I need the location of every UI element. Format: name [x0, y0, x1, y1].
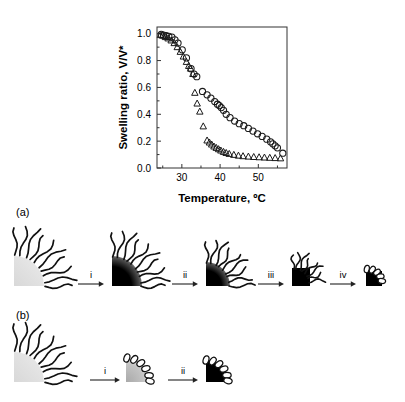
- arrow-i-head: [115, 377, 120, 382]
- y-tick-label: 0.0: [137, 163, 151, 174]
- collapsed-chain: [145, 372, 154, 378]
- arrow-i-label: i: [90, 269, 92, 280]
- data-point-triangle: [194, 100, 200, 106]
- polymer-chain: [309, 279, 326, 283]
- polymer-chain: [137, 259, 157, 272]
- state-fully-collapsed-particle: [202, 355, 233, 385]
- y-tick-label: 1.0: [137, 28, 151, 39]
- polymer-chain: [211, 241, 218, 264]
- state-collapsing-core-particle: [111, 231, 170, 288]
- data-point-triangle: [245, 153, 251, 159]
- polymer-chain: [45, 373, 77, 379]
- x-tick-label: 50: [253, 172, 265, 183]
- polymer-chain: [45, 284, 72, 288]
- y-tick-label: 0.2: [137, 136, 151, 147]
- arrow-ii-label: ii: [183, 269, 187, 280]
- polymer-chain: [229, 278, 252, 282]
- arrow-step-ii: ii: [168, 365, 198, 383]
- polymer-chain: [141, 278, 170, 283]
- polymer-chain: [43, 362, 71, 372]
- polymer-chain: [117, 231, 124, 257]
- polymer-chain: [296, 253, 300, 269]
- y-tick-label: 0.6: [137, 82, 151, 93]
- collapsed-chain: [145, 377, 155, 385]
- x-axis-title: Temperature, ºC: [178, 192, 266, 204]
- polymer-chain: [139, 268, 164, 277]
- state-collapsed-core-particle: [291, 253, 326, 286]
- arrow-iii-head: [279, 281, 284, 286]
- arrow-i-head: [99, 281, 104, 286]
- y-tick-label: 0.4: [137, 109, 151, 120]
- polymer-chain: [291, 255, 294, 269]
- arrow-step-ii: ii: [172, 269, 198, 287]
- x-tick-label: 30: [176, 172, 188, 183]
- schematic-a: iiiiiiiv: [0, 218, 405, 318]
- polymer-chain: [39, 250, 66, 268]
- data-point-triangle: [192, 89, 198, 95]
- arrow-step-iv: iv: [330, 269, 356, 287]
- data-point-triangle: [277, 155, 283, 161]
- arrow-ii-head: [193, 281, 198, 286]
- figure-container: 3040500.00.20.40.60.81.0Temperature, ºCS…: [0, 0, 405, 402]
- data-point-circle: [208, 95, 214, 101]
- polymer-chain: [41, 257, 64, 271]
- arrow-iii-label: iii: [268, 269, 274, 280]
- arrow-step-i: i: [90, 365, 120, 383]
- y-tick-label: 0.8: [137, 55, 151, 66]
- polymer-chain: [13, 324, 17, 351]
- y-axis-title: Swelling ratio, V/V*: [117, 45, 129, 150]
- polymer-chain: [41, 353, 64, 367]
- arrow-ii-label: ii: [181, 365, 185, 376]
- polymer-chain: [141, 284, 165, 288]
- arrow-ii-head: [193, 377, 198, 382]
- state-chain-collapsed-particle: [123, 353, 155, 385]
- polymer-chain: [205, 242, 209, 263]
- state-fully-collapsed-particle: [364, 265, 386, 286]
- data-point-triangle: [197, 108, 203, 114]
- polymer-chain: [20, 227, 28, 256]
- polymer-chain: [111, 233, 115, 257]
- arrow-step-i: i: [78, 269, 104, 287]
- plot-frame: [157, 27, 287, 168]
- state-swollen-particle: [13, 227, 77, 289]
- polymer-chain: [13, 228, 17, 255]
- polymer-chain: [45, 277, 77, 283]
- arrow-iv-head: [351, 281, 356, 286]
- arrow-iv-label: iv: [340, 269, 347, 280]
- arrow-step-iii: iii: [258, 269, 284, 287]
- panel-a-label: (a): [16, 206, 29, 218]
- state-shrinking-particle: [205, 241, 255, 288]
- particle-core: [14, 256, 44, 286]
- schematic-b: iii: [0, 320, 405, 402]
- collapsed-chain: [223, 377, 233, 385]
- polymer-chain: [43, 266, 71, 276]
- data-point-triangle: [200, 123, 206, 129]
- particle-core: [14, 352, 44, 382]
- collapsed-chain: [378, 278, 386, 284]
- polymer-chain: [20, 323, 28, 352]
- x-tick-label: 40: [215, 172, 227, 183]
- polymer-chain: [229, 283, 255, 287]
- arrow-i-label: i: [104, 365, 106, 376]
- collapsed-chain: [223, 372, 232, 378]
- polymer-chain: [45, 380, 72, 384]
- state-swollen-particle: [13, 323, 77, 385]
- swelling-ratio-chart: 3040500.00.20.40.60.81.0Temperature, ºCS…: [0, 0, 405, 205]
- data-point-circle: [204, 92, 210, 98]
- polymer-chain: [39, 346, 66, 364]
